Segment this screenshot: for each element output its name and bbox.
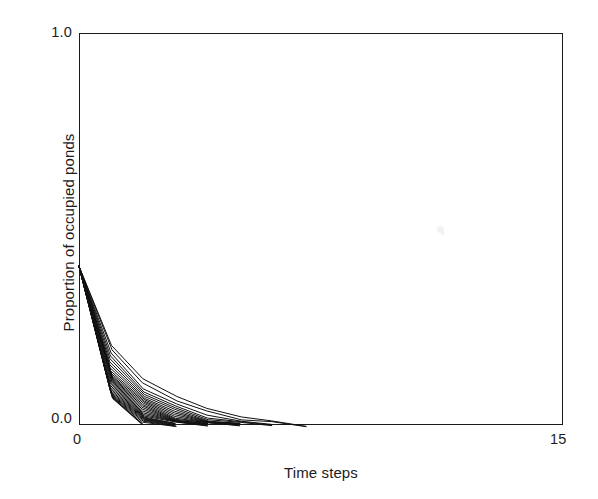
y-axis-title: Proportion of occupied ponds — [60, 103, 77, 363]
y-axis-tick-bottom: 0.0 — [51, 410, 72, 426]
x-axis-tick-right: 15 — [550, 431, 567, 447]
series-line — [79, 266, 272, 425]
x-axis-title: Time steps — [79, 464, 563, 481]
y-axis-tick-top: 1.0 — [51, 24, 72, 40]
series-line — [79, 266, 271, 424]
x-axis-tick-left: 0 — [73, 431, 81, 447]
series-group — [79, 266, 306, 426]
line-chart-plot-area — [79, 33, 563, 425]
series-line — [79, 266, 306, 426]
figure-canvas: 1.0 0.0 0 15 Proportion of occupied pond… — [0, 0, 598, 499]
